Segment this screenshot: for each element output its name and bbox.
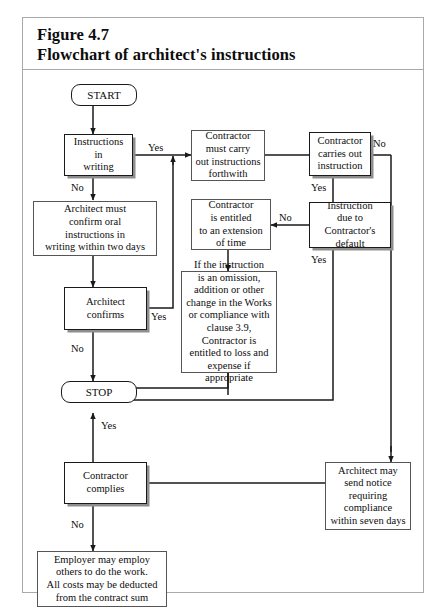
node-due-to-default-label: Instruction due to Contractor's default <box>310 200 390 250</box>
node-employer-may-employ[interactable]: Employer may employ others to do the wor… <box>37 551 167 607</box>
node-start[interactable]: START <box>71 84 137 106</box>
figure-frame: Figure 4.7 Flowchart of architect's inst… <box>22 17 424 593</box>
edge-label-instructions-no: No <box>71 182 84 193</box>
node-architect-confirms-label: Architect confirms <box>84 296 127 321</box>
edge-label-default-no: No <box>279 212 292 223</box>
flowchart-canvas: START Instructions in writing Architect … <box>23 70 425 593</box>
node-due-to-default[interactable]: Instruction due to Contractor's default <box>309 202 391 248</box>
edge-label-confirms-no: No <box>71 343 84 354</box>
node-contractor-complies[interactable]: Contractor complies <box>64 462 147 504</box>
node-employer-may-employ-label: Employer may employ others to do the wor… <box>45 554 160 604</box>
edge-label-carriesout-yes: Yes <box>311 182 326 193</box>
node-contractor-complies-label: Contractor complies <box>81 470 130 495</box>
node-omission-clause[interactable]: If the instruction is an omission, addit… <box>181 271 277 373</box>
node-architect-confirms[interactable]: Architect confirms <box>64 287 147 330</box>
edge-label-complies-yes: Yes <box>101 420 116 431</box>
node-omission-clause-label: If the instruction is an omission, addit… <box>182 259 276 385</box>
figure-number: Figure 4.7 <box>37 25 423 45</box>
node-entitled-extension[interactable]: Contractor is entitled to an extension o… <box>191 199 271 250</box>
edge-label-carriesout-no: No <box>373 138 386 149</box>
page-title: Flowchart of architect's instructions <box>37 45 423 65</box>
node-carries-out-instruction[interactable]: Contractor carries out instruction <box>309 132 371 176</box>
node-entitled-extension-label: Contractor is entitled to an extension o… <box>197 199 265 249</box>
node-must-carry-out[interactable]: Contractor must carry out instructions f… <box>191 130 265 181</box>
figure-title-block: Figure 4.7 Flowchart of architect's inst… <box>23 18 423 70</box>
node-instructions-in-writing[interactable]: Instructions in writing <box>64 134 133 176</box>
figure-page: Figure 4.7 Flowchart of architect's inst… <box>0 0 442 613</box>
node-architect-confirm-oral[interactable]: Architect must confirm oral instructions… <box>33 201 157 256</box>
node-instructions-in-writing-label: Instructions in writing <box>72 136 126 174</box>
node-start-label: START <box>85 89 122 102</box>
edge-label-default-yes: Yes <box>311 254 326 265</box>
node-architect-may-send-notice-label: Architect may send notice requiring comp… <box>328 465 407 528</box>
node-carries-out-instruction-label: Contractor carries out instruction <box>316 135 365 173</box>
edge-label-confirms-yes: Yes <box>151 311 166 322</box>
node-architect-confirm-oral-label: Architect must confirm oral instructions… <box>43 203 147 253</box>
edge-label-instructions-yes: Yes <box>148 142 163 153</box>
node-stop[interactable]: STOP <box>61 381 137 403</box>
edge-label-complies-no: No <box>71 519 84 530</box>
node-must-carry-out-label: Contractor must carry out instructions f… <box>193 130 262 180</box>
node-architect-may-send-notice[interactable]: Architect may send notice requiring comp… <box>325 462 411 530</box>
node-stop-label: STOP <box>84 386 115 399</box>
